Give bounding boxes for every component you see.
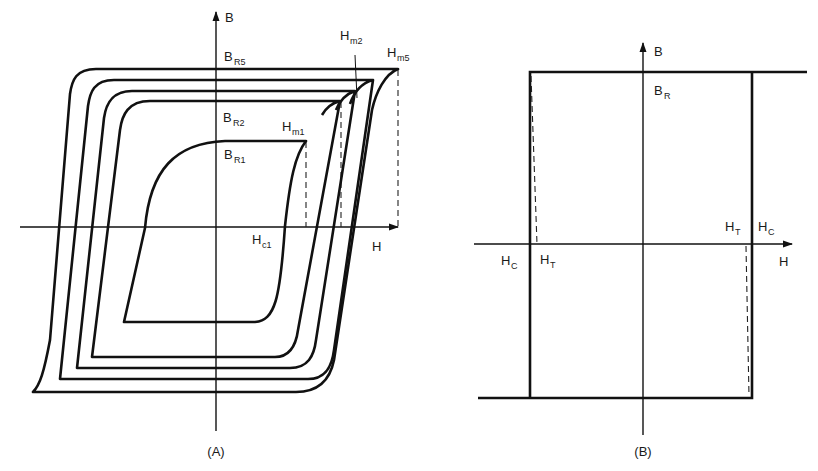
svg-text:B: B bbox=[223, 110, 232, 125]
svg-text:c1: c1 bbox=[262, 240, 272, 250]
svg-text:R: R bbox=[664, 91, 671, 101]
svg-text:R5: R5 bbox=[234, 57, 246, 67]
label-br1: B R1 bbox=[224, 147, 246, 165]
svg-text:H: H bbox=[340, 28, 349, 43]
label-ht-left: H T bbox=[540, 252, 556, 270]
svg-text:m2: m2 bbox=[350, 36, 363, 46]
svg-text:H: H bbox=[725, 219, 734, 234]
label-hc1: H c1 bbox=[252, 232, 272, 250]
svg-text:C: C bbox=[768, 227, 775, 237]
svg-text:m1: m1 bbox=[292, 127, 305, 137]
panel-b: B H B R H C H T H T H C (B) bbox=[474, 43, 807, 459]
label-br5: B R5 bbox=[224, 49, 246, 67]
label-br: B R bbox=[654, 83, 671, 101]
svg-text:H: H bbox=[501, 253, 510, 268]
panel-b-h-axis-label: H bbox=[779, 254, 788, 269]
label-hc-right: H C bbox=[758, 219, 775, 237]
panel-b-caption: (B) bbox=[634, 444, 651, 459]
label-hm5: H m5 bbox=[387, 45, 410, 63]
hysteresis-figure: B H B R5 B R2 B R1 H m1 H m2 H m5 H c1 bbox=[0, 0, 818, 471]
label-br2: B R2 bbox=[223, 110, 245, 128]
svg-text:T: T bbox=[550, 260, 556, 270]
svg-text:m5: m5 bbox=[397, 53, 410, 63]
panel-a: B H B R5 B R2 B R1 H m1 H m2 H m5 H c1 bbox=[20, 10, 410, 459]
svg-text:B: B bbox=[224, 147, 233, 162]
svg-text:H: H bbox=[252, 232, 261, 247]
svg-text:T: T bbox=[735, 227, 741, 237]
label-hm1: H m1 bbox=[282, 119, 305, 137]
svg-text:R1: R1 bbox=[234, 155, 246, 165]
svg-text:B: B bbox=[224, 49, 233, 64]
panel-a-h-axis-label: H bbox=[372, 239, 381, 254]
panel-a-caption: (A) bbox=[207, 444, 224, 459]
svg-text:H: H bbox=[282, 119, 291, 134]
svg-text:H: H bbox=[540, 252, 549, 267]
svg-text:B: B bbox=[654, 83, 663, 98]
panel-a-b-axis-label: B bbox=[225, 10, 234, 25]
panel-b-ht-right-dashed-line bbox=[746, 246, 749, 396]
label-hm2: H m2 bbox=[340, 28, 363, 46]
panel-b-ht-left-dashed-line bbox=[531, 76, 537, 244]
svg-text:H: H bbox=[387, 45, 396, 60]
svg-text:R2: R2 bbox=[233, 118, 245, 128]
label-ht-right: H T bbox=[725, 219, 741, 237]
svg-text:C: C bbox=[511, 261, 518, 271]
label-hc-left: H C bbox=[501, 253, 518, 271]
panel-b-b-axis-label: B bbox=[654, 44, 663, 59]
panel-a-loop-1 bbox=[124, 141, 306, 322]
svg-text:H: H bbox=[758, 219, 767, 234]
